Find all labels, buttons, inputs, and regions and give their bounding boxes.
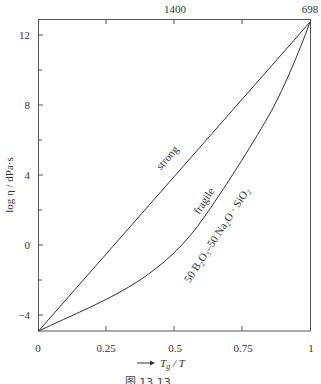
- fragile-label: fragile: [191, 185, 217, 216]
- x-axis-title-rest: / T: [170, 357, 186, 369]
- viscosity-chart: 0 0.25 0.5 0.75 1 1400 698 12 8 4 0 −4 l…: [0, 0, 321, 384]
- x-tick-label-0.5: 0.5: [168, 342, 182, 354]
- top-label-1400: 1400: [164, 3, 187, 15]
- x-tick-label-0.75: 0.75: [233, 342, 253, 354]
- strong-label: strong: [153, 143, 180, 172]
- y-tick-label-neg4: −4: [18, 309, 30, 321]
- svg-text:Tg / T: Tg / T: [160, 357, 186, 371]
- y-tick-label-0: 0: [25, 239, 31, 251]
- top-axis-ticks: [106, 20, 242, 25]
- x-tick-label-0: 0: [35, 342, 41, 354]
- strong-curve: [39, 22, 311, 331]
- top-label-698: 698: [302, 3, 319, 15]
- y-tick-label-12: 12: [19, 29, 30, 41]
- figure-caption: 图 13.13 ……: [0, 376, 321, 384]
- y-tick-label-8: 8: [25, 99, 31, 111]
- y-tick-label-4: 4: [25, 169, 31, 181]
- x-axis-title: Tg / T: [137, 357, 186, 371]
- y-axis-title: log η / dPa·s: [3, 157, 15, 213]
- x-tick-label-0.25: 0.25: [96, 342, 116, 354]
- y-axis-ticks: [39, 35, 44, 315]
- compound-label: 50 B₂O₃–50 Na₂O · SiO₂: [181, 185, 251, 284]
- arrow-head-icon: [150, 361, 155, 366]
- x-tick-label-1: 1: [308, 342, 314, 354]
- x-axis-ticks: [106, 326, 242, 331]
